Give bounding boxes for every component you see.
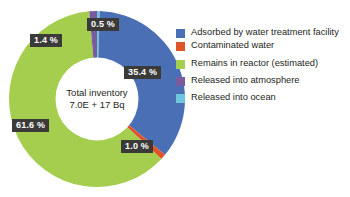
legend-item-adsorbed-by-water-treatment-facility: Adsorbed by water treatment facility	[176, 27, 348, 38]
legend-swatch-icon	[176, 60, 185, 69]
legend-item-label: Remains in reactor (estimated)	[191, 58, 318, 69]
legend-swatch-icon	[176, 42, 185, 51]
legend-swatch-icon	[176, 77, 185, 86]
legend-swatch-icon	[176, 29, 185, 38]
legend-item-label: Released into atmosphere	[191, 75, 300, 86]
legend-item-released-into-atmosphere: Released into atmosphere	[176, 75, 348, 86]
value-label-released-into-atmosphere: 1.4 %	[30, 34, 62, 47]
legend-item-label: Contaminated water	[191, 40, 274, 51]
value-label-released-into-ocean: 0.5 %	[87, 18, 119, 31]
legend-swatch-icon	[176, 94, 185, 103]
legend-item-label: Adsorbed by water treatment facility	[191, 27, 339, 38]
value-label-adsorbed-by-water-treatment-facility: 35.4 %	[124, 66, 161, 79]
value-label-contaminated-water: 1.0 %	[121, 140, 153, 153]
legend-item-label: Released into ocean	[191, 92, 276, 103]
pie-chart-figure: Total inventory 7.0E + 17 Bq 0.5 % 1.4 %…	[0, 0, 350, 197]
value-label-remains-in-reactor: 61.6 %	[12, 119, 49, 132]
legend-item-released-into-ocean: Released into ocean	[176, 92, 348, 103]
legend-item-remains-in-reactor: Remains in reactor (estimated)	[176, 58, 348, 69]
chart-legend: Adsorbed by water treatment facility Con…	[176, 27, 348, 110]
legend-item-contaminated-water: Contaminated water	[176, 40, 348, 51]
